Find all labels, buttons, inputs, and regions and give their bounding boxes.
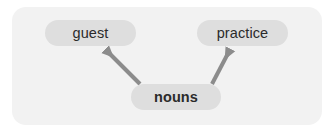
node-guest[interactable]: guest	[45, 20, 136, 46]
diagram-canvas: guest practice nouns	[0, 0, 333, 133]
node-practice[interactable]: practice	[197, 20, 288, 46]
node-guest-label: guest	[73, 26, 109, 41]
node-practice-label: practice	[217, 26, 269, 41]
node-nouns-label: nouns	[154, 90, 198, 105]
node-nouns[interactable]: nouns	[131, 84, 221, 110]
